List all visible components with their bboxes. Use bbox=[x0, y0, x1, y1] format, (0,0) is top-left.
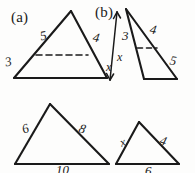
bottom-right-base-label: 6 bbox=[145, 164, 152, 173]
part-b-arrow-bottom-label: x bbox=[117, 51, 122, 63]
part-b-arrow-top-label: 3 bbox=[122, 29, 129, 42]
part-b-caption: (b) bbox=[95, 5, 113, 20]
part-b-large-triangle-shape bbox=[126, 9, 177, 79]
figure-drawing bbox=[0, 0, 195, 173]
part-a-caption: (a) bbox=[11, 10, 28, 25]
geometry-figure: (a) (b) 5 4 3 x 3 x 4 5 6 8 10 x 4 6 bbox=[0, 0, 195, 173]
part-a-lower-right-side-label: x bbox=[106, 61, 111, 73]
bottom-left-base-label: 10 bbox=[56, 163, 69, 173]
